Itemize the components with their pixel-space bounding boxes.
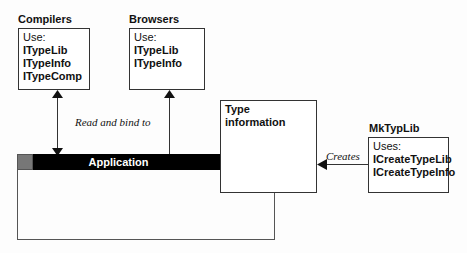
creates-connector — [325, 164, 368, 165]
type-information-title: Type information — [225, 103, 312, 129]
compilers-title: Compilers — [18, 13, 72, 25]
browsers-box: Use: ITypeLib ITypeInfo — [129, 28, 205, 90]
mktyplib-item: ICreateTypeInfo — [373, 166, 444, 179]
creates-label: Creates — [326, 150, 360, 162]
read-bind-label: Read and bind to — [75, 116, 150, 128]
diagram-canvas: Compilers Use: ITypeLib ITypeInfo ITypeC… — [0, 0, 467, 253]
mktyplib-use-label: Uses: — [373, 140, 444, 153]
compilers-item: ITypeLib — [23, 44, 85, 57]
system-menu-icon — [17, 154, 33, 170]
application-title-bar: Application — [17, 154, 220, 170]
browsers-item: ITypeLib — [134, 44, 200, 57]
browsers-item: ITypeInfo — [134, 57, 200, 70]
browsers-use-label: Use: — [134, 31, 200, 44]
arrow-up-icon — [52, 90, 63, 98]
mktyplib-box: Uses: ICreateTypeLib ICreateTypeInfo — [368, 137, 449, 193]
browsers-title: Browsers — [129, 13, 179, 25]
compilers-item: ITypeInfo — [23, 57, 85, 70]
compilers-item: ITypeComp — [23, 70, 85, 83]
application-title: Application — [89, 156, 149, 168]
mktyplib-item: ICreateTypeLib — [373, 153, 444, 166]
mktyplib-title: MkTypLib — [369, 122, 420, 134]
compilers-connector — [57, 96, 58, 151]
compilers-use-label: Use: — [23, 31, 85, 44]
arrow-up-icon — [164, 90, 175, 98]
type-information-box: Type information — [220, 100, 317, 193]
browsers-connector — [169, 96, 170, 154]
compilers-box: Use: ITypeLib ITypeInfo ITypeComp — [18, 28, 90, 90]
